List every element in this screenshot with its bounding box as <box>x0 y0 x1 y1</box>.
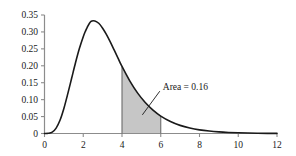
x-axis-tick-label: 6 <box>158 140 163 150</box>
x-axis-tick-label: 0 <box>42 140 47 150</box>
x-axis-tick-label: 2 <box>81 140 86 150</box>
probability-density-chart: Area = 0.16 00.050.100.150.200.250.300.3… <box>0 0 296 156</box>
y-axis-tick-label: 0.35 <box>21 10 38 20</box>
y-axis-tick-labels: 00.050.100.150.200.250.300.35 <box>21 10 38 139</box>
y-axis-tick-label: 0.10 <box>21 95 38 105</box>
chart-canvas: Area = 0.16 00.050.100.150.200.250.300.3… <box>0 0 296 156</box>
y-axis-tick-label: 0.05 <box>21 112 38 122</box>
x-axis-tick-label: 4 <box>120 140 125 150</box>
y-axis-tick-label: 0.25 <box>21 44 38 54</box>
x-axis-tick-label: 12 <box>272 140 282 150</box>
y-axis-tick-label: 0.20 <box>21 61 38 71</box>
x-axis-tick-labels: 024681012 <box>42 140 282 150</box>
x-axis-tick-label: 8 <box>197 140 202 150</box>
y-axis-tick-label: 0 <box>33 129 38 139</box>
x-axis-tick-label: 10 <box>234 140 244 150</box>
area-annotation-label: Area = 0.16 <box>163 82 208 92</box>
y-axis-tick-label: 0.15 <box>21 78 38 88</box>
density-curve <box>45 21 278 134</box>
y-axis-tick-label: 0.30 <box>21 27 38 37</box>
